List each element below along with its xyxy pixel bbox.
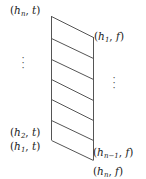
vertical-ellipsis-left: ··· <box>21 55 25 70</box>
diagonal-rung <box>52 80 94 101</box>
diagonal-rung <box>52 100 94 121</box>
label-hn-t: (hn, t) <box>10 4 40 16</box>
diagonal-rung <box>52 17 94 38</box>
diagonal-rung <box>52 39 94 59</box>
label-h2-t: (h2, t) <box>10 126 40 138</box>
diagonal-rung <box>52 60 94 80</box>
label-h1-t: (h1, t) <box>10 140 40 152</box>
label-hn-1-f: (hn−1, f) <box>93 146 133 158</box>
label-hn-f: (hn, f) <box>93 165 123 177</box>
diagonal-rung <box>52 141 94 161</box>
vertical-ellipsis-right: ··· <box>112 75 116 90</box>
label-h1-f: (h1, f) <box>94 30 124 42</box>
diagonal-rung <box>52 121 94 141</box>
